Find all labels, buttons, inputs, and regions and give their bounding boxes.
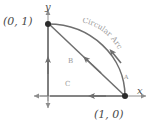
- vertex-a-label: A: [124, 74, 128, 80]
- path-c-label: C: [65, 81, 70, 88]
- point-0-1-marker: [45, 21, 51, 27]
- path-b-label: B: [68, 58, 73, 65]
- path-b-group: [49, 24, 125, 96]
- y-axis-label: y: [45, 2, 51, 12]
- path-b-arrow: [86, 59, 101, 73]
- point-1-0-label: (1, 0): [94, 109, 124, 120]
- x-axis-label: x: [137, 86, 143, 96]
- point-1-0-marker: [122, 93, 128, 99]
- point-0-1-label: (0, 1): [3, 16, 33, 27]
- quarter-circle-figure: Circular Arc (0, 1) (1, 0) y x B C A: [0, 0, 154, 128]
